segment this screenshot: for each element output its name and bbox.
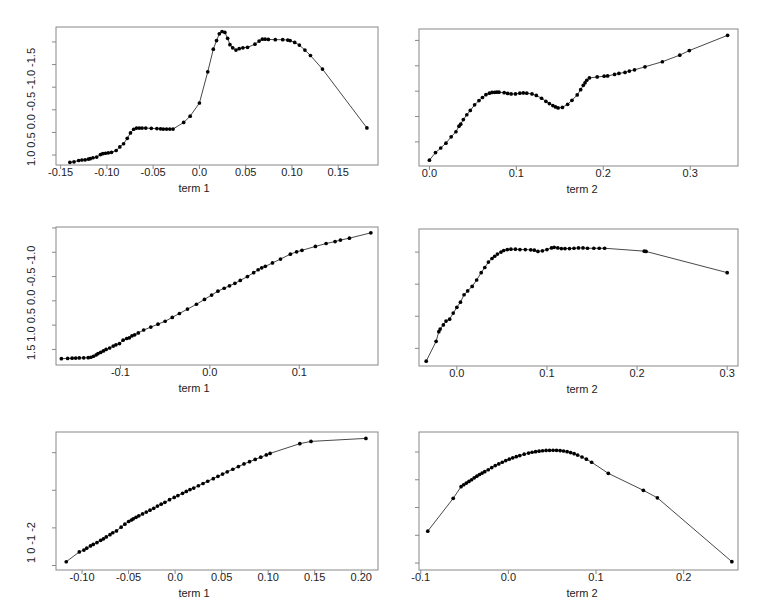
data-point [133, 333, 137, 337]
x-axis-title-r1c1: term 1 [0, 182, 388, 194]
data-point [260, 266, 264, 270]
data-point [565, 450, 569, 454]
data-point [253, 458, 257, 462]
data-point [216, 289, 220, 293]
data-point [140, 126, 144, 130]
data-point [514, 455, 518, 459]
data-point [462, 293, 466, 297]
data-point [197, 484, 201, 488]
data-point [106, 151, 110, 155]
data-point [455, 305, 459, 309]
figure-grid: 1.0 0.5 0.0 -0.5 -1.0 -1.5 -0.15-0.10-0.… [0, 0, 776, 614]
data-point [566, 103, 570, 107]
data-point [171, 127, 175, 131]
data-point [595, 75, 599, 79]
data-point [642, 488, 646, 492]
data-point [137, 514, 141, 518]
data-point [298, 43, 302, 47]
data-point [248, 460, 252, 464]
data-point [473, 103, 477, 107]
data-point [77, 550, 81, 554]
data-line [426, 247, 727, 361]
data-point [333, 240, 337, 244]
data-point [555, 448, 559, 452]
data-point [606, 74, 610, 78]
data-point [493, 464, 497, 468]
panel-r1c2: 2 1 0 -1 -2 0.00.10.20.3 term 2 [388, 0, 776, 200]
data-point [156, 322, 160, 326]
data-point [273, 38, 277, 42]
data-point [104, 535, 108, 539]
data-point [222, 286, 226, 290]
data-point [238, 279, 242, 283]
x-tick-label: 0.2 [676, 571, 691, 583]
data-point [77, 159, 81, 163]
x-tick-label: 0.0 [202, 366, 217, 378]
x-tick-label: -0.05 [116, 571, 141, 583]
data-point [518, 454, 522, 458]
data-point [434, 151, 438, 155]
data-point [617, 72, 621, 76]
data-point [136, 331, 140, 335]
data-point [556, 246, 560, 250]
data-point [518, 248, 522, 252]
x-axis-title-r2c2: term 2 [388, 383, 776, 395]
data-point [339, 238, 343, 242]
data-point [509, 247, 513, 251]
data-point [481, 96, 485, 100]
data-point [156, 504, 160, 508]
data-point [263, 265, 267, 269]
data-point [114, 343, 118, 347]
data-point [148, 508, 152, 512]
data-point [504, 459, 508, 463]
data-point [502, 91, 506, 95]
x-tick-label: 0.0 [167, 571, 182, 583]
data-point [263, 37, 267, 41]
data-point [314, 245, 318, 249]
data-point [534, 94, 538, 98]
panel-r3c1: 1 0 -1 -2 -0.10-0.050.00.050.100.150.20 … [0, 405, 388, 614]
data-point [300, 248, 304, 252]
data-point [288, 39, 292, 43]
plot-frame [56, 227, 378, 365]
data-point [64, 560, 68, 564]
data-point [72, 160, 76, 164]
data-point [115, 529, 119, 533]
data-point [168, 127, 172, 131]
data-point [178, 312, 182, 316]
data-point [461, 118, 465, 122]
data-point [470, 285, 474, 289]
data-point [68, 160, 72, 164]
data-point [237, 47, 241, 51]
data-point [149, 127, 153, 131]
data-point [77, 356, 81, 360]
x-tick-label: 0.1 [292, 366, 307, 378]
data-point [506, 92, 510, 96]
data-point [628, 69, 632, 73]
data-point [288, 252, 292, 256]
data-point [509, 92, 513, 96]
panel-r1c1: 1.0 0.5 0.0 -0.5 -1.0 -1.5 -0.15-0.10-0.… [0, 0, 388, 200]
data-point [324, 242, 328, 246]
data-point [242, 462, 246, 466]
data-point [74, 356, 78, 360]
data-point [502, 249, 506, 253]
data-point [155, 127, 159, 131]
x-axis-ticklabels-r2c1: -0.10.00.1 [0, 366, 388, 382]
data-point [466, 289, 470, 293]
data-point [529, 248, 533, 252]
data-point [521, 91, 525, 95]
data-point [203, 298, 207, 302]
y-axis-labels-r2c1: 1.5 1.0 0.5 0.0 -0.5 -1.0 [26, 226, 37, 360]
data-point [309, 54, 313, 58]
data-point [548, 102, 552, 106]
plot-frame [56, 432, 378, 570]
data-point [253, 42, 257, 46]
data-point [540, 96, 544, 100]
data-point [577, 246, 581, 250]
y-axis-labels-r3c1: 1 0 -1 -2 [26, 437, 37, 563]
x-tick-label: 0.10 [281, 166, 302, 178]
data-point [82, 356, 86, 360]
data-point [369, 231, 373, 235]
data-point [603, 246, 607, 250]
